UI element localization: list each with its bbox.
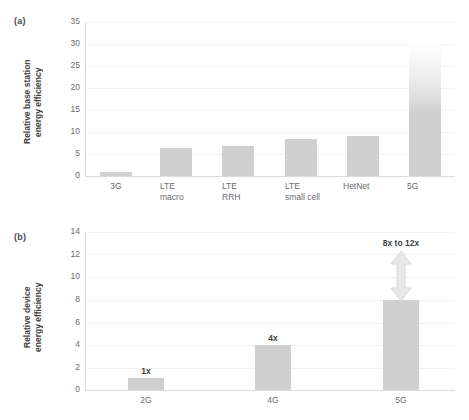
panel-b: (b) Relative device energy efficiency 14… [0, 210, 469, 420]
ytick-a-30: 30 [58, 39, 80, 48]
ytick-b-4: 4 [58, 340, 80, 349]
xtick-a-hetnet: HetNet [339, 181, 395, 192]
ytick-a-25: 25 [58, 61, 80, 70]
range-label-b-5g: 8x to 12x [355, 238, 447, 248]
xtick-b-2g: 2G [120, 395, 172, 406]
ytick-a-35: 35 [58, 17, 80, 26]
bar-b-2g [128, 378, 164, 390]
bar-b-4g [255, 345, 291, 390]
xtick-a-5g: 5G [401, 181, 459, 192]
gridline-a-20 [85, 88, 455, 89]
ytick-a-10: 10 [58, 127, 80, 136]
ytick-b-10: 10 [58, 272, 80, 281]
ytick-b-8: 8 [58, 295, 80, 304]
figure-root: (a) Relative base station energy efficie… [0, 0, 469, 420]
ytick-a-0: 0 [58, 171, 80, 180]
range-arrow-b-5g [389, 250, 413, 302]
xtick-b-5g: 5G [375, 395, 427, 406]
ytick-b-2: 2 [58, 363, 80, 372]
bar-a-lte-macro [160, 148, 192, 176]
xtick-a-3g: 3G [90, 181, 142, 192]
panel-b-letter: (b) [14, 232, 26, 242]
ytick-b-12: 12 [58, 250, 80, 259]
xtick-a-lte-rrh: LTE RRH [214, 181, 270, 203]
xtick-a-lte-small-cell: LTE small cell [277, 181, 347, 203]
gridline-a-10 [85, 132, 455, 133]
gridline-a-15 [85, 110, 455, 111]
ytick-b-6: 6 [58, 318, 80, 327]
panel-a-letter: (a) [14, 16, 26, 26]
gridline-a-5 [85, 154, 455, 155]
ytick-a-20: 20 [58, 83, 80, 92]
gridline-a-35 [85, 22, 455, 23]
ytick-a-15: 15 [58, 105, 80, 114]
bar-a-5g-range-extension [409, 44, 441, 112]
bar-a-hetnet [347, 136, 379, 176]
gridline-b-14 [85, 232, 455, 233]
bar-b-5g [383, 300, 419, 390]
panel-b-y-axis-title: Relative device energy efficiency [22, 258, 34, 376]
gridline-a-0 [85, 176, 455, 177]
gridline-a-25 [85, 66, 455, 67]
panel-a-y-axis-title: Relative base station energy efficiency [22, 42, 34, 162]
bar-a-lte-small-cell [285, 139, 317, 176]
panel-a-plot-area [85, 22, 456, 176]
ytick-b-14: 14 [58, 227, 80, 236]
xtick-a-lte-macro: LTE macro [152, 181, 208, 203]
panel-a: (a) Relative base station energy efficie… [0, 0, 469, 210]
ytick-b-0: 0 [58, 385, 80, 394]
ytick-a-5: 5 [58, 149, 80, 158]
bar-a-5g [409, 112, 441, 176]
bar-a-3g [100, 172, 132, 176]
bar-a-lte-rrh [222, 146, 254, 176]
bar-value-b-2g: 1x [128, 366, 164, 376]
gridline-b-0 [85, 390, 455, 391]
xtick-b-4g: 4G [247, 395, 299, 406]
gridline-a-30 [85, 44, 455, 45]
bar-value-b-4g: 4x [255, 333, 291, 343]
